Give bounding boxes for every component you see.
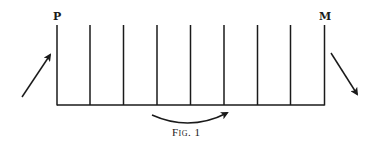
curved-arrow-icon [152, 113, 227, 123]
right-arrow-icon [331, 53, 357, 94]
figure-caption: Fig. 1 [172, 127, 201, 138]
vertical-lines [57, 25, 325, 106]
label-p: P [53, 11, 61, 22]
label-m: M [319, 11, 331, 22]
left-arrow-icon [22, 55, 50, 97]
